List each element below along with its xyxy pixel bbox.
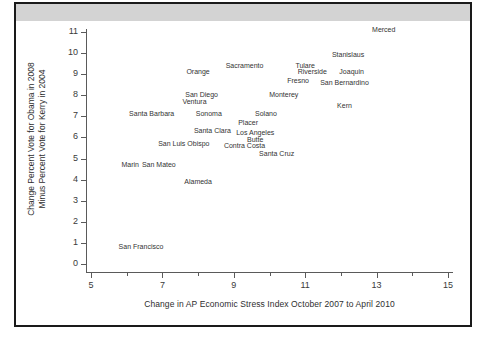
y-tick bbox=[81, 53, 86, 54]
y-tick bbox=[81, 180, 86, 181]
y-tick-label: 2 bbox=[60, 217, 78, 226]
x-tick-label: 9 bbox=[222, 281, 246, 290]
x-tick-label: 7 bbox=[150, 281, 174, 290]
data-point-label: Merced bbox=[372, 26, 395, 34]
y-axis-title: Change Percent Vote for Obama in 2008 Mi… bbox=[26, 24, 48, 254]
y-tick bbox=[81, 32, 86, 33]
figure-page: 01234567891011 579111315 MercedStanislau… bbox=[0, 0, 489, 339]
data-point-label: Ventura bbox=[182, 98, 206, 106]
x-tick bbox=[91, 273, 92, 278]
y-tick bbox=[81, 264, 86, 265]
data-point-label: Orange bbox=[186, 68, 209, 76]
x-tick bbox=[162, 273, 163, 278]
x-tick-label: 11 bbox=[293, 281, 317, 290]
y-tick bbox=[81, 243, 86, 244]
y-tick-label: 5 bbox=[60, 154, 78, 163]
y-axis-line bbox=[86, 29, 87, 273]
y-tick bbox=[81, 159, 86, 160]
y-tick bbox=[81, 201, 86, 202]
x-axis-title: Change in AP Economic Stress Index Octob… bbox=[86, 299, 453, 309]
data-point-label: San Luis Obispo bbox=[158, 140, 209, 148]
x-minor-tick bbox=[127, 273, 128, 276]
x-tick bbox=[448, 273, 449, 278]
data-point-label: Joaquin bbox=[339, 68, 364, 76]
y-axis-title-line1: Change Percent Vote for Obama in 2008 bbox=[26, 24, 37, 254]
data-point-label: Monterey bbox=[269, 91, 298, 99]
x-tick bbox=[234, 273, 235, 278]
y-tick bbox=[81, 74, 86, 75]
x-tick-label: 5 bbox=[79, 281, 103, 290]
y-tick-label: 4 bbox=[60, 175, 78, 184]
x-tick bbox=[377, 273, 378, 278]
y-tick bbox=[81, 116, 86, 117]
y-tick-label: 0 bbox=[60, 259, 78, 268]
data-point-label: Alameda bbox=[184, 178, 212, 186]
x-minor-tick bbox=[412, 273, 413, 276]
data-point-label: Placer bbox=[238, 119, 258, 127]
data-point-label: Santa Cruz bbox=[259, 150, 294, 158]
x-minor-tick bbox=[270, 273, 271, 276]
x-minor-tick bbox=[341, 273, 342, 276]
y-tick bbox=[81, 95, 86, 96]
y-tick-label: 6 bbox=[60, 132, 78, 141]
y-tick-label: 1 bbox=[60, 238, 78, 247]
data-point-label: Solano bbox=[255, 110, 277, 118]
y-tick-label: 9 bbox=[60, 69, 78, 78]
x-tick bbox=[305, 273, 306, 278]
y-tick-label: 3 bbox=[60, 196, 78, 205]
data-point-label: Riverside bbox=[298, 68, 327, 76]
y-tick bbox=[81, 222, 86, 223]
data-point-label: Fresno bbox=[287, 77, 309, 85]
data-point-label: Marin bbox=[122, 161, 140, 169]
data-point-label: Stanislaus bbox=[332, 51, 364, 59]
data-point-label: Santa Barbara bbox=[129, 110, 174, 118]
y-tick-label: 10 bbox=[60, 48, 78, 57]
y-tick bbox=[81, 137, 86, 138]
x-tick-label: 15 bbox=[436, 281, 460, 290]
data-point-label: Contra Costa bbox=[224, 142, 265, 150]
y-axis-title-line2: Minus Percent Vote for Kerry in 2004 bbox=[37, 24, 48, 254]
data-point-label: San Mateo bbox=[142, 161, 176, 169]
y-tick-label: 8 bbox=[60, 90, 78, 99]
x-tick-label: 13 bbox=[365, 281, 389, 290]
data-point-label: Santa Clara bbox=[194, 127, 231, 135]
data-point-label: San Bernardino bbox=[320, 79, 369, 87]
data-point-label: San Francisco bbox=[119, 243, 164, 251]
y-tick-label: 7 bbox=[60, 111, 78, 120]
y-tick-label: 11 bbox=[60, 27, 78, 36]
scatter-plot: 01234567891011 579111315 MercedStanislau… bbox=[0, 0, 489, 339]
x-minor-tick bbox=[198, 273, 199, 276]
data-point-label: Kern bbox=[337, 102, 352, 110]
data-point-label: Sonoma bbox=[196, 110, 222, 118]
data-point-label: Sacramento bbox=[226, 62, 264, 70]
